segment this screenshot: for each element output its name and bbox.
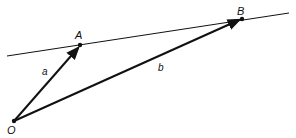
point-a — [78, 43, 82, 47]
diagram-svg: O A B a b — [0, 0, 296, 138]
vector-b-arrow — [14, 20, 239, 121]
label-b: B — [237, 5, 244, 17]
vector-a-arrow — [14, 48, 78, 121]
point-o — [12, 119, 16, 123]
point-b — [240, 17, 244, 21]
label-vector-b: b — [158, 62, 164, 73]
label-vector-a: a — [42, 66, 48, 77]
vector-diagram: O A B a b — [0, 0, 296, 138]
label-o: O — [7, 124, 16, 136]
line-through-a-b — [7, 13, 289, 56]
label-a: A — [74, 29, 82, 41]
